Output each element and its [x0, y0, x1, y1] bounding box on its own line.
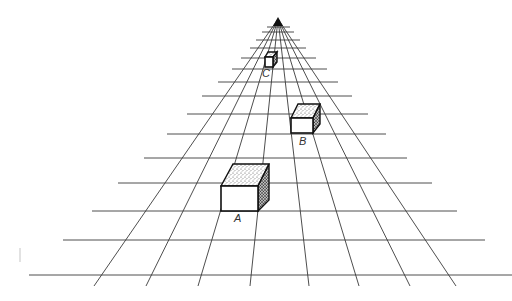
cube-a: [221, 164, 269, 211]
converging-grid-line: [278, 19, 359, 286]
vanishing-point-marker: [273, 17, 283, 26]
cube-c: [265, 52, 277, 67]
converging-grid-line: [146, 19, 278, 286]
cube-c-label: C: [262, 68, 270, 79]
cube-b: [291, 104, 320, 133]
converging-grid-line: [94, 19, 278, 286]
converging-grid-line: [278, 19, 410, 286]
cube-b-label: B: [299, 136, 306, 147]
perspective-grid: [0, 0, 512, 301]
cube-a-label: A: [234, 213, 241, 224]
perspective-diagram: A B C: [0, 0, 512, 301]
